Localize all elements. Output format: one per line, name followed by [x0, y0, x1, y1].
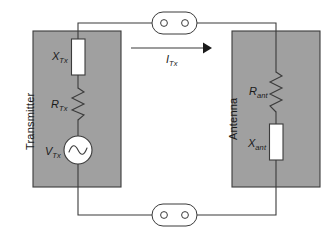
current-arrow-i-tx	[131, 43, 212, 54]
x-tx-label: XTx	[52, 51, 68, 65]
connector-top	[152, 12, 197, 34]
r-tx-label: RTx	[51, 99, 68, 113]
x-tx-component	[72, 39, 86, 75]
circuit-svg	[0, 0, 334, 242]
connector-bottom	[152, 204, 197, 226]
x-ant-label: Xant	[248, 138, 266, 152]
antenna-block-label: Antenna	[227, 98, 239, 140]
current-arrow-label: ITx	[166, 54, 178, 68]
r-ant-label: Rant	[249, 86, 268, 100]
x-ant-component	[270, 124, 284, 160]
circuit-diagram: Transmitter Antenna XTx RTx VTx Rant Xan…	[0, 0, 334, 242]
v-tx-component	[64, 136, 92, 164]
v-tx-label: VTx	[45, 146, 61, 160]
transmitter-block-label: Transmitter	[24, 93, 36, 150]
